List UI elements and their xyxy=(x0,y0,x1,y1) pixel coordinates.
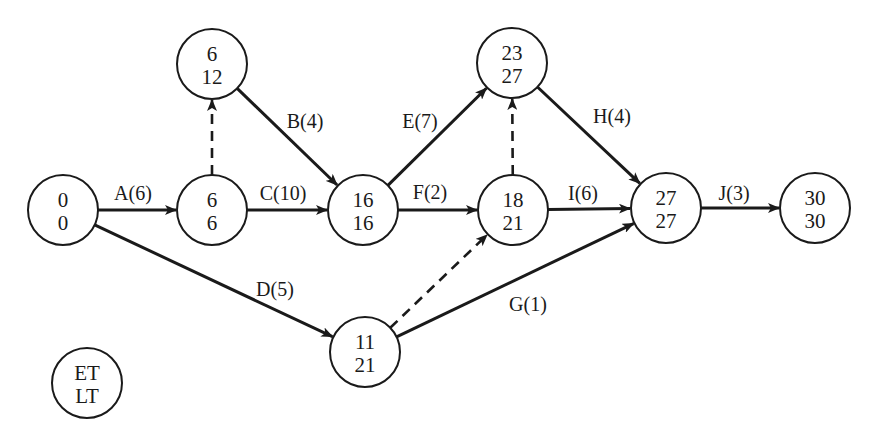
activity-label: A(6) xyxy=(114,182,152,205)
latest-time: 27 xyxy=(502,64,523,88)
activity-label: H(4) xyxy=(593,105,631,128)
earliest-time: 6 xyxy=(207,188,218,212)
latest-time: 6 xyxy=(207,211,218,235)
legend-et-label: ET xyxy=(74,361,100,385)
legend-lt-label: LT xyxy=(75,384,99,408)
activity-label: F(2) xyxy=(413,181,447,204)
activity-label: B(4) xyxy=(287,110,324,133)
earliest-time: 23 xyxy=(502,41,523,65)
earliest-time: 0 xyxy=(58,188,69,212)
latest-time: 21 xyxy=(503,211,524,235)
activity-arrow-h xyxy=(537,87,639,183)
event-node: 3030 xyxy=(780,173,850,243)
activity-arrow-e xyxy=(388,88,486,185)
event-node: 1121 xyxy=(330,317,400,387)
event-node: 00 xyxy=(28,175,98,245)
activity-arrow-i xyxy=(548,208,630,209)
dummy-activity-arrow xyxy=(390,235,487,328)
legend: ET LT xyxy=(52,348,122,418)
event-node: 612 xyxy=(177,29,247,99)
latest-time: 12 xyxy=(202,65,223,89)
activity-label: E(7) xyxy=(402,110,438,133)
earliest-time: 16 xyxy=(353,188,374,212)
network-diagram: A(6)B(4)C(10)D(5)E(7)F(2)G(1)H(4)I(6)J(3… xyxy=(0,0,875,447)
earliest-time: 27 xyxy=(656,186,677,210)
latest-time: 16 xyxy=(353,211,374,235)
activity-label: D(5) xyxy=(256,278,294,301)
earliest-time: 6 xyxy=(207,42,218,66)
latest-time: 27 xyxy=(656,209,677,233)
latest-time: 30 xyxy=(805,209,826,233)
event-node: 1616 xyxy=(328,175,398,245)
latest-time: 21 xyxy=(355,353,376,377)
dummy-activity-arrow xyxy=(512,99,513,175)
network-diagram-svg: A(6)B(4)C(10)D(5)E(7)F(2)G(1)H(4)I(6)J(3… xyxy=(0,0,875,447)
event-node: 1821 xyxy=(478,175,548,245)
event-node: 2727 xyxy=(631,173,701,243)
event-node: 2327 xyxy=(477,28,547,98)
earliest-time: 11 xyxy=(355,330,375,354)
activity-label: G(1) xyxy=(509,293,547,316)
event-node: 66 xyxy=(177,175,247,245)
activity-label: I(6) xyxy=(568,182,598,205)
latest-time: 0 xyxy=(58,211,69,235)
earliest-time: 30 xyxy=(805,186,826,210)
activity-arrow-b xyxy=(237,88,337,185)
activity-label: J(3) xyxy=(718,182,749,205)
earliest-time: 18 xyxy=(503,188,524,212)
activity-label: C(10) xyxy=(260,182,307,205)
